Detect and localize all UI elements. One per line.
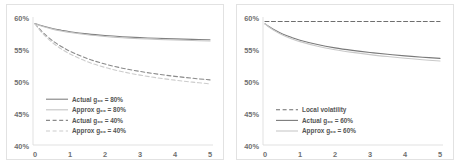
- y-tick-label: 50%: [244, 78, 259, 87]
- x-axis-left: 0 1 2 3 4 5: [33, 145, 213, 159]
- series-line: [265, 24, 440, 59]
- y-tick-label: 50%: [14, 78, 29, 87]
- y-tick-label: 55%: [244, 46, 259, 55]
- series-line: [265, 24, 440, 61]
- series-curves-left: [35, 24, 210, 84]
- y-axis-left: 60% 55% 50% 45% 40%: [14, 14, 33, 151]
- x-tick-label: 0: [263, 150, 267, 159]
- plot-area-left: 60% 55% 50% 45% 40% 0 1 2 3 4 5 Actual g…: [0, 0, 230, 168]
- chart-legend-left: Actual g₀₀ = 80%Approx g₀₀ = 80%Actual g…: [46, 96, 126, 136]
- two-panel-volatility-figure: 60% 55% 50% 45% 40% 0 1 2 3 4 5 Actual g…: [0, 0, 460, 168]
- x-tick-label: 3: [368, 150, 372, 159]
- chart-svg-right: 60% 55% 50% 45% 40% 0 1 2 3 4 5 Local vo…: [230, 0, 460, 168]
- y-tick-label: 45%: [244, 110, 259, 119]
- series-line: [35, 24, 210, 41]
- legend-label: Actual g₀₀ = 80%: [72, 96, 123, 104]
- series-curves-right: [265, 21, 440, 61]
- x-tick-label: 0: [33, 150, 37, 159]
- legend-label: Local volatility: [302, 106, 347, 114]
- y-tick-label: 40%: [14, 142, 29, 151]
- chart-svg-left: 60% 55% 50% 45% 40% 0 1 2 3 4 5 Actual g…: [0, 0, 230, 168]
- x-tick-label: 4: [173, 150, 178, 159]
- x-tick-label: 1: [298, 150, 302, 159]
- x-tick-label: 2: [103, 150, 107, 159]
- y-tick-label: 45%: [14, 110, 29, 119]
- chart-panel-left: 60% 55% 50% 45% 40% 0 1 2 3 4 5 Actual g…: [0, 0, 230, 168]
- x-tick-label: 5: [438, 150, 442, 159]
- x-tick-label: 5: [208, 150, 212, 159]
- legend-label: Approx g₀₀ = 40%: [72, 127, 126, 135]
- x-tick-label: 2: [333, 150, 337, 159]
- legend-label: Actual g₀₀ = 60%: [302, 117, 353, 125]
- plot-area-right: 60% 55% 50% 45% 40% 0 1 2 3 4 5 Local vo…: [230, 0, 460, 168]
- legend-label: Approx g₀₀ = 80%: [72, 106, 126, 114]
- y-tick-label: 60%: [14, 14, 29, 23]
- x-tick-label: 4: [403, 150, 408, 159]
- y-tick-label: 55%: [14, 46, 29, 55]
- x-axis-right: 0 1 2 3 4 5: [263, 145, 443, 159]
- x-tick-label: 3: [138, 150, 142, 159]
- x-tick-label: 1: [68, 150, 72, 159]
- legend-label: Actual g₀₀ = 40%: [72, 117, 123, 125]
- chart-panel-right: 60% 55% 50% 45% 40% 0 1 2 3 4 5 Local vo…: [230, 0, 460, 168]
- y-tick-label: 40%: [244, 142, 259, 151]
- legend-label: Approx g₀₀ = 60%: [302, 127, 356, 135]
- y-tick-label: 60%: [244, 14, 259, 23]
- y-axis-right: 60% 55% 50% 45% 40%: [244, 14, 263, 151]
- chart-legend-right: Local volatilityActual g₀₀ = 60%Approx g…: [276, 106, 356, 135]
- series-line: [35, 24, 210, 84]
